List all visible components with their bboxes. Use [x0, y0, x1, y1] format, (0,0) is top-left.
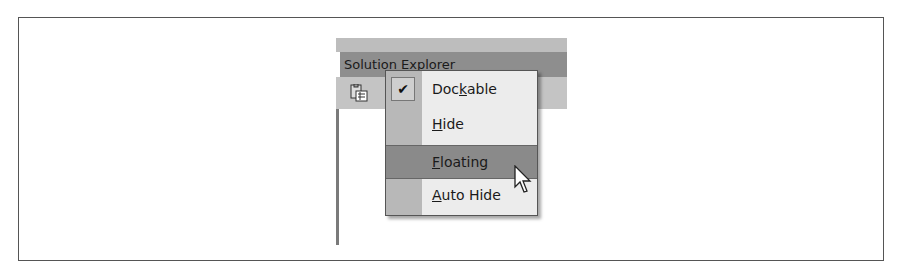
checkmark-icon: ✔ — [391, 77, 415, 101]
mouse-pointer-icon — [513, 165, 535, 195]
menu-item-label: Dockable — [432, 81, 497, 97]
properties-icon[interactable] — [350, 84, 368, 102]
menu-item-label: Hide — [432, 116, 464, 132]
menu-item-dockable[interactable]: ✔ Dockable — [386, 73, 537, 107]
panel-left-edge — [336, 109, 339, 245]
panel-top-strip — [336, 38, 567, 52]
menu-item-hide[interactable]: Hide — [386, 108, 537, 142]
menu-item-label: Floating — [432, 154, 488, 170]
menu-item-label: Auto Hide — [432, 187, 501, 203]
